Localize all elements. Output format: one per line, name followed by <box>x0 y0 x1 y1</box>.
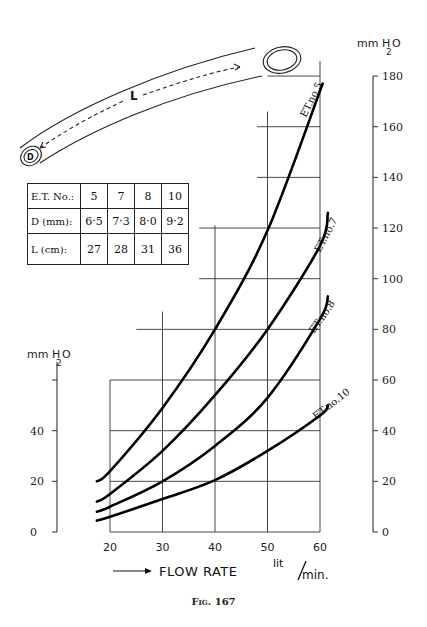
figure-caption: Fig. 167 <box>0 596 427 607</box>
curve-label: ET.no.8 <box>307 298 338 335</box>
figure-canvas: L D ET.no.5ET.no.7ET.no.8ET.no.10 020406… <box>0 0 427 627</box>
x-axis-unit-numerator: lit <box>273 557 284 570</box>
x-tick-label: 40 <box>208 541 222 554</box>
left-axis-unit-o: O <box>62 348 71 361</box>
table-cell: 7 <box>108 184 135 209</box>
right-tick-label: 40 <box>382 425 396 438</box>
table-row: L (cm):27283136 <box>28 234 189 265</box>
x-axis-title: FLOW RATE lit min. <box>113 557 328 582</box>
curve-etno5 <box>97 84 323 482</box>
right-tick-label: 20 <box>382 475 396 488</box>
x-tick-label: 60 <box>313 541 327 554</box>
table-cell: 7·3 <box>108 209 135 234</box>
table-cell: 5 <box>81 184 108 209</box>
table-cell: 36 <box>162 234 189 265</box>
right-y-axis: 020406080100120140160180 mm H 2 O <box>357 37 403 539</box>
length-label: L <box>130 89 138 103</box>
tube-lower-edge <box>40 76 262 163</box>
right-tick-label: 160 <box>382 121 403 134</box>
length-dash-right <box>143 67 240 95</box>
x-tick-label: 30 <box>156 541 170 554</box>
x-axis-unit-denominator: min. <box>302 568 328 582</box>
length-arrowhead-right <box>234 64 240 70</box>
diameter-label: D <box>27 153 34 162</box>
right-tick-label: 120 <box>382 222 403 235</box>
table-cell: 6·5 <box>81 209 108 234</box>
table-cell: 9·2 <box>162 209 189 234</box>
curve-etno10 <box>97 405 328 520</box>
x-tick-label: 50 <box>261 541 275 554</box>
right-tick-label: 180 <box>382 70 403 83</box>
tube-spec-table: E.T. No.:57810D (mm):6·57·38·09·2L (cm):… <box>27 183 189 265</box>
table-cell: 8 <box>135 184 162 209</box>
table-row: E.T. No.:57810 <box>28 184 189 209</box>
table-cell: 27 <box>81 234 108 265</box>
x-axis-label: FLOW RATE <box>159 564 238 579</box>
left-axis-unit-sub2: 2 <box>56 358 62 368</box>
right-tick-label: 0 <box>382 526 389 539</box>
row-label: L (cm): <box>28 234 81 265</box>
tube-illustration <box>17 43 303 169</box>
length-arrowhead-left <box>40 142 46 148</box>
table-cell: 28 <box>108 234 135 265</box>
left-tick-label: 40 <box>30 425 44 438</box>
table-cell: 10 <box>162 184 189 209</box>
right-tick-label: 60 <box>382 374 396 387</box>
chart-curves <box>97 84 328 521</box>
arrow-right-icon <box>145 568 152 574</box>
x-tick-label: 20 <box>103 541 117 554</box>
table-cell: 31 <box>135 234 162 265</box>
table-cell: 8·0 <box>135 209 162 234</box>
curve-label: ET.no.10 <box>310 386 351 422</box>
x-axis-ticks: 2030405060 <box>103 541 327 554</box>
right-tick-label: 140 <box>382 171 403 184</box>
curve-etno8 <box>97 296 328 511</box>
left-tick-label: 0 <box>30 526 37 539</box>
right-axis-unit-sub2: 2 <box>386 47 392 57</box>
right-axis-unit-o: O <box>392 37 401 50</box>
right-tick-label: 100 <box>382 273 403 286</box>
row-label: E.T. No.: <box>28 184 81 209</box>
table-row: D (mm):6·57·38·09·2 <box>28 209 189 234</box>
row-label: D (mm): <box>28 209 81 234</box>
curve-label: ET.no.7 <box>312 216 339 254</box>
right-tick-label: 80 <box>382 323 396 336</box>
left-y-axis: 02040 mm H 2 O <box>27 348 71 539</box>
et-table: E.T. No.:57810D (mm):6·57·38·09·2L (cm):… <box>27 183 189 265</box>
left-tick-label: 20 <box>30 475 44 488</box>
